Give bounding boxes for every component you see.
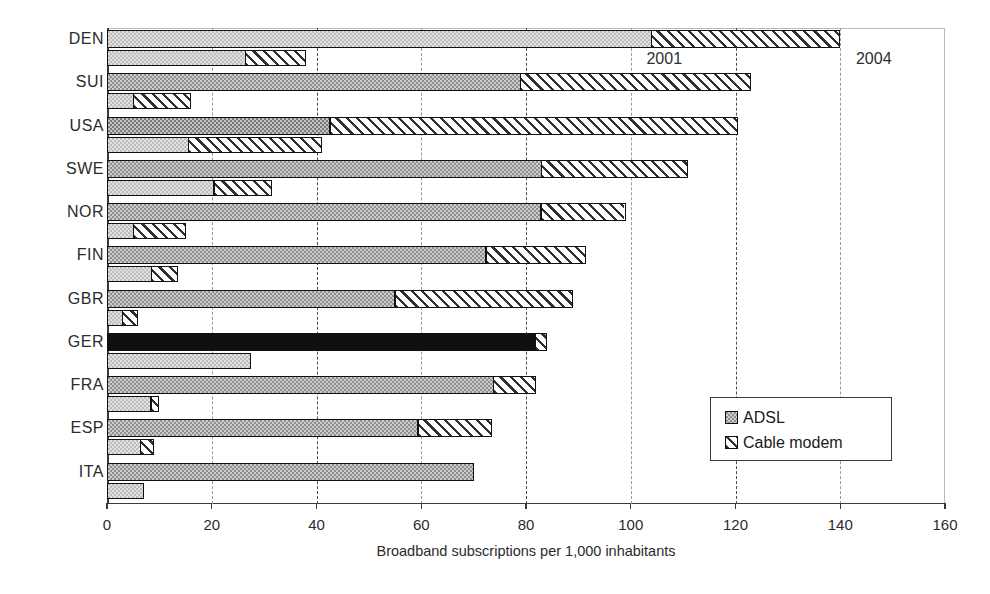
- bar-usa-2004: [107, 117, 738, 135]
- segment-adsl: [108, 291, 395, 307]
- segment-adsl: [108, 397, 151, 411]
- segment-cable-modem: [418, 420, 491, 436]
- x-tick-label-80: 80: [518, 516, 535, 533]
- segment-divider: [213, 181, 214, 195]
- legend-item-adsl: ADSL: [725, 405, 891, 430]
- y-axis-label-nor: NOR: [34, 203, 104, 221]
- segment-divider: [520, 74, 521, 90]
- bar-den-2004: [107, 30, 840, 48]
- segment-adsl: [108, 94, 134, 108]
- segment-divider: [133, 224, 134, 238]
- bar-gbr-2001: [107, 310, 138, 326]
- segment-divider: [394, 291, 395, 307]
- bar-esp-2001: [107, 439, 154, 455]
- segment-cable-modem: [151, 397, 159, 411]
- segment-divider: [651, 31, 652, 47]
- segment-cable-modem: [651, 31, 839, 47]
- tickmark-40: [316, 503, 317, 509]
- segment-adsl: [108, 267, 151, 281]
- segment-cable-modem: [541, 204, 624, 220]
- tickmark-120: [735, 503, 736, 509]
- segment-adsl: [108, 440, 141, 454]
- x-tick-label-160: 160: [932, 516, 957, 533]
- tickmark-20: [211, 503, 212, 509]
- segment-cable-modem: [330, 118, 737, 134]
- segment-adsl: [108, 224, 134, 238]
- bar-swe-2004: [107, 160, 688, 178]
- segment-adsl: [108, 311, 123, 325]
- bar-fra-2001: [107, 396, 159, 412]
- segment-divider: [122, 311, 123, 325]
- segment-divider: [541, 161, 542, 177]
- tickmark-100: [630, 503, 631, 509]
- segment-adsl: [108, 161, 541, 177]
- segment-cable-modem: [188, 138, 320, 152]
- y-axis-label-fin: FIN: [34, 246, 104, 264]
- segment-cable-modem: [541, 161, 687, 177]
- y-axis-label-sui: SUI: [34, 73, 104, 91]
- bar-nor-2001: [107, 223, 186, 239]
- segment-adsl: [108, 484, 143, 498]
- x-tick-label-120: 120: [723, 516, 748, 533]
- gridline-80: [526, 28, 527, 504]
- tickmark-0: [106, 503, 107, 509]
- segment-cable-modem: [214, 181, 271, 195]
- legend-label-adsl: ADSL: [743, 409, 785, 427]
- x-tick-label-0: 0: [103, 516, 111, 533]
- segment-divider: [245, 51, 246, 65]
- segment-adsl: [108, 31, 651, 47]
- x-tick-label-20: 20: [203, 516, 220, 533]
- segment-adsl: [108, 51, 245, 65]
- legend-item-cable-modem: Cable modem: [725, 430, 891, 455]
- y-axis-label-usa: USA: [34, 117, 104, 135]
- y-axis-label-swe: SWE: [34, 160, 104, 178]
- segment-adsl: [108, 420, 418, 436]
- tickmark-60: [421, 503, 422, 509]
- segment-cable-modem: [520, 74, 750, 90]
- segment-cable-modem: [123, 311, 138, 325]
- segment-adsl: [108, 181, 214, 195]
- segment-adsl: [108, 354, 250, 368]
- bar-fin-2004: [107, 246, 586, 264]
- x-tick-label-100: 100: [618, 516, 643, 533]
- segment-cable-modem: [134, 94, 190, 108]
- y-axis-label-fra: FRA: [34, 376, 104, 394]
- y-axis-label-ita: ITA: [34, 463, 104, 481]
- tickmark-80: [525, 503, 526, 509]
- annotation-2004: 2004: [856, 50, 892, 68]
- bar-fra-2004: [107, 376, 536, 394]
- segment-cable-modem: [536, 334, 546, 350]
- segment-divider: [140, 440, 141, 454]
- tickmark-140: [840, 503, 841, 509]
- segment-adsl: [108, 377, 494, 393]
- y-axis-label-esp: ESP: [34, 419, 104, 437]
- segment-cable-modem: [494, 377, 536, 393]
- chart-legend: ADSL Cable modem: [710, 397, 892, 461]
- bar-esp-2004: [107, 419, 492, 437]
- segment-divider: [133, 94, 134, 108]
- segment-cable-modem: [245, 51, 305, 65]
- broadband-bar-chart: DENSUIUSASWENORFINGBRGERFRAESPITA 200120…: [0, 0, 990, 594]
- segment-divider: [535, 334, 536, 350]
- y-axis-label-ger: GER: [34, 333, 104, 351]
- segment-adsl: [108, 74, 520, 90]
- x-axis-title: Broadband subscriptions per 1,000 inhabi…: [107, 543, 945, 559]
- gridline-100: [631, 28, 632, 504]
- bar-sui-2004: [107, 73, 751, 91]
- y-axis-label-den: DEN: [34, 30, 104, 48]
- segment-divider: [493, 377, 494, 393]
- segment-adsl: [108, 334, 536, 350]
- segment-cable-modem: [486, 247, 585, 263]
- bar-swe-2001: [107, 180, 272, 196]
- legend-label-cable-modem: Cable modem: [743, 434, 843, 452]
- bar-nor-2004: [107, 203, 626, 221]
- bar-gbr-2004: [107, 290, 573, 308]
- tickmark-160: [944, 503, 945, 509]
- y-axis-label-gbr: GBR: [34, 290, 104, 308]
- segment-divider: [188, 138, 189, 152]
- segment-adsl: [108, 464, 473, 480]
- segment-cable-modem: [141, 440, 154, 454]
- segment-adsl: [108, 247, 486, 263]
- segment-divider: [329, 118, 330, 134]
- x-tick-label-60: 60: [413, 516, 430, 533]
